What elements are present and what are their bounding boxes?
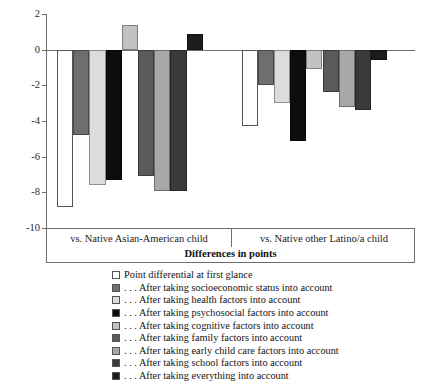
legend-label: . . . After taking early child care fact… — [124, 345, 339, 357]
bar — [89, 50, 105, 186]
axis-title-row: Differences in points — [46, 247, 415, 263]
y-tick-label: -10 — [10, 223, 40, 233]
legend-label: . . . After taking everything into accou… — [124, 370, 289, 382]
y-tick-mark — [42, 85, 47, 86]
bar — [242, 50, 258, 127]
bar — [323, 50, 339, 93]
legend-item: . . . After taking family factors into a… — [112, 332, 412, 345]
y-tick-label: 0 — [10, 45, 40, 55]
legend-item: . . . After taking cognitive factors int… — [112, 319, 412, 332]
legend-item: . . . After taking early child care fact… — [112, 345, 412, 358]
bar — [274, 50, 290, 104]
y-tick-label: -4 — [10, 116, 40, 126]
bar — [106, 50, 122, 180]
legend-item: Point differential at first glance — [112, 269, 412, 282]
legend-item: . . . After taking everything into accou… — [112, 370, 412, 383]
bar — [73, 50, 89, 136]
legend-swatch — [112, 271, 120, 279]
y-tick-label: -6 — [10, 152, 40, 162]
legend-item: . . . After taking health factors into a… — [112, 294, 412, 307]
y-tick-mark — [42, 50, 47, 51]
y-tick-label: 2 — [10, 9, 40, 19]
bar — [355, 50, 371, 111]
legend-label: . . . After taking cognitive factors int… — [124, 320, 314, 332]
y-tick-mark — [42, 14, 47, 15]
y-tick-mark — [42, 157, 47, 158]
y-tick-label: -8 — [10, 187, 40, 197]
x-axis-title: Differences in points — [47, 248, 414, 259]
legend-swatch — [112, 359, 120, 367]
category-strip: vs. Native Asian-American child vs. Nati… — [46, 229, 415, 247]
legend-swatch — [112, 347, 120, 355]
bar — [170, 50, 186, 191]
bar — [57, 50, 73, 207]
legend-label: . . . After taking school factors into a… — [124, 357, 302, 369]
bar — [339, 50, 355, 107]
legend-item: . . . After taking school factors into a… — [112, 357, 412, 370]
legend-label: . . . After taking family factors into a… — [124, 332, 302, 344]
legend-swatch — [112, 372, 120, 380]
bar — [122, 25, 138, 50]
chart-legend: Point differential at first glance. . . … — [112, 269, 412, 382]
chart-figure: 20-2-4-6-8-10 vs. Native Asian-American … — [0, 0, 427, 389]
legend-label: . . . After taking health factors into a… — [124, 294, 300, 306]
legend-label: . . . After taking psychosocial factors … — [124, 307, 328, 319]
y-tick-mark — [42, 121, 47, 122]
legend-item: . . . After taking psychosocial factors … — [112, 307, 412, 320]
bar — [371, 50, 387, 61]
axis-region — [46, 14, 415, 228]
plot-area: 20-2-4-6-8-10 vs. Native Asian-American … — [0, 0, 427, 262]
legend-swatch — [112, 309, 120, 317]
category-label-asian-american: vs. Native Asian-American child — [47, 232, 231, 245]
legend-swatch — [112, 334, 120, 342]
legend-label: Point differential at first glance — [124, 269, 252, 281]
bar — [138, 50, 154, 177]
bar — [290, 50, 306, 141]
legend-swatch — [112, 284, 120, 292]
y-tick-label: -2 — [10, 80, 40, 90]
legend-label: . . . After taking socioeconomic status … — [124, 282, 332, 294]
y-axis-tick-labels: 20-2-4-6-8-10 — [6, 0, 40, 240]
y-tick-mark — [42, 192, 47, 193]
legend-swatch — [112, 322, 120, 330]
bar — [306, 50, 322, 70]
bar — [187, 34, 203, 50]
legend-item: . . . After taking socioeconomic status … — [112, 282, 412, 295]
bar — [154, 50, 170, 191]
bar — [258, 50, 274, 86]
category-label-other-latino: vs. Native other Latino/a child — [232, 232, 416, 245]
legend-swatch — [112, 296, 120, 304]
